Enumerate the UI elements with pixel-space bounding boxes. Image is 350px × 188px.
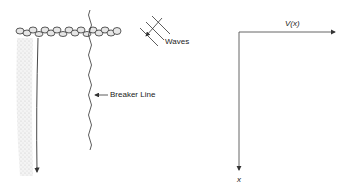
breaker-line-label: Breaker Line [110,91,155,99]
waves-label: Waves [165,38,189,46]
rock-breakwater-icon [16,27,121,37]
velocity-axis-label: V(x) [285,20,300,28]
wave-direction-arrow [146,18,162,36]
shore-current-arrow [37,38,38,172]
diagram-canvas [0,0,350,188]
beach-shading [16,38,33,176]
distance-axis-label: x [237,176,241,184]
